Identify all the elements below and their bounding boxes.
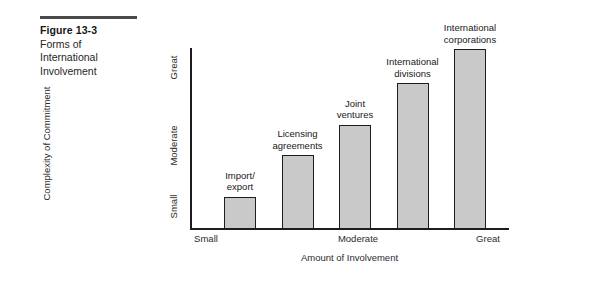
y-axis-tick-moderate: Moderate (168, 116, 179, 176)
bar-label-4: International corporations (418, 22, 522, 45)
bar-label-1: Licensing agreements (246, 128, 350, 151)
figure-number: Figure 13-3 (40, 24, 145, 38)
caption-rule (40, 16, 137, 19)
caption-line-3: Involvement (40, 65, 145, 79)
bar-label-2: Joint ventures (303, 98, 407, 121)
figure-caption: Figure 13-3 Forms of International Invol… (40, 16, 145, 78)
caption-line-2: International (40, 51, 145, 65)
x-axis-title: Amount of Involvement (190, 252, 509, 263)
y-axis-line (190, 48, 192, 229)
bar-label-0: Import/ export (188, 170, 292, 193)
x-axis-tick-great: Great (448, 233, 528, 244)
caption-line-1: Forms of (40, 38, 145, 52)
bar-label-3: International divisions (361, 56, 465, 79)
y-axis-title: Complexity of Commitment (41, 49, 52, 239)
bar-0 (224, 197, 256, 229)
y-axis-tick-great: Great (168, 38, 179, 98)
bar-chart: Figure 13-3 Forms of International Invol… (0, 0, 593, 281)
y-axis-tick-small: Small (168, 177, 179, 237)
x-axis-tick-moderate: Moderate (318, 233, 398, 244)
x-axis-tick-small: Small (166, 233, 246, 244)
